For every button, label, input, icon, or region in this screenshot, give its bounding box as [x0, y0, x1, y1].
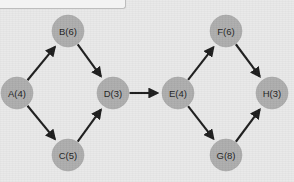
graph-node-circle-b[interactable] [52, 15, 84, 47]
partial-toolbar-strip [0, 0, 126, 9]
graph-edge-c-d [78, 110, 101, 142]
graph-node-circle-e[interactable] [162, 77, 194, 109]
graph-node-c[interactable]: C(5) [52, 139, 84, 171]
graph-node-h[interactable]: H(3) [256, 77, 288, 109]
graph-edge-e-g [188, 106, 213, 139]
graph-svg: A(4)B(6)C(5)D(3)E(4)F(6)G(8)H(3) [0, 0, 294, 182]
graph-edge-g-h [236, 110, 260, 142]
diagram-canvas: A(4)B(6)C(5)D(3)E(4)F(6)G(8)H(3) [0, 0, 294, 182]
edge-layer [27, 44, 259, 142]
graph-edge-e-f [188, 47, 213, 80]
graph-node-f[interactable]: F(6) [210, 15, 242, 47]
graph-node-b[interactable]: B(6) [52, 15, 84, 47]
graph-node-circle-h[interactable] [256, 77, 288, 109]
graph-node-d[interactable]: D(3) [97, 77, 129, 109]
graph-edge-a-b [27, 47, 54, 80]
graph-node-circle-d[interactable] [97, 77, 129, 109]
graph-edge-f-h [236, 44, 260, 76]
graph-node-circle-c[interactable] [52, 139, 84, 171]
graph-node-circle-a[interactable] [1, 77, 33, 109]
graph-edge-a-c [27, 106, 54, 139]
graph-node-e[interactable]: E(4) [162, 77, 194, 109]
graph-node-circle-f[interactable] [210, 15, 242, 47]
graph-node-g[interactable]: G(8) [210, 139, 242, 171]
graph-node-a[interactable]: A(4) [1, 77, 33, 109]
graph-node-circle-g[interactable] [210, 139, 242, 171]
graph-edge-b-d [78, 44, 101, 76]
